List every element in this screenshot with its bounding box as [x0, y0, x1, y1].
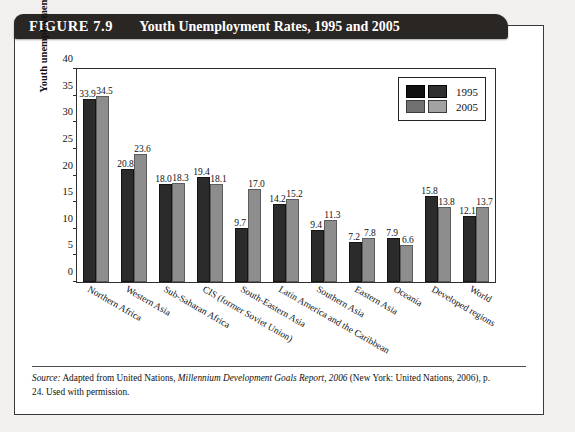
- legend-item-2005: 2005: [406, 100, 478, 113]
- bar-value-label: 18.0: [155, 174, 172, 184]
- bar-2005: 6.6: [400, 245, 413, 282]
- bar-value-label: 6.6: [402, 235, 414, 245]
- legend-swatch-2005-b: [428, 100, 447, 113]
- bar-2005: 34.5: [96, 96, 109, 282]
- bar-2005: 11.3: [324, 220, 337, 282]
- bar-value-label: 7.2: [348, 232, 360, 242]
- y-tick-label: 35: [63, 79, 74, 90]
- x-tick-label: Oceania: [392, 284, 424, 308]
- bar-1995: 15.8: [425, 196, 438, 282]
- legend-swatch-1995-a: [406, 85, 425, 98]
- bar-value-label: 19.4: [193, 167, 210, 177]
- y-tick-label: 10: [63, 212, 74, 223]
- bar-value-label: 33.9: [79, 89, 96, 99]
- y-tick-label: 40: [63, 53, 74, 64]
- bar-2005: 18.1: [210, 184, 223, 282]
- y-tick-label: 30: [63, 106, 74, 117]
- bar-2005: 17.0: [248, 189, 261, 282]
- bar-value-label: 13.7: [476, 197, 493, 207]
- y-tick-label: 5: [68, 239, 73, 250]
- x-tick-label: World: [468, 284, 493, 304]
- bar-value-label: 18.1: [210, 174, 227, 184]
- figure-title: Youth Unemployment Rates, 1995 and 2005: [139, 19, 400, 35]
- bar-value-label: 15.2: [286, 189, 303, 199]
- y-tick-label: 0: [68, 266, 73, 277]
- bar-1995: 12.1: [463, 216, 476, 282]
- source-divider: [32, 366, 526, 367]
- legend-label-2005: 2005: [456, 101, 478, 113]
- bar-group: 9.411.3: [311, 69, 337, 282]
- bar-1995: 33.9: [83, 99, 96, 282]
- x-tick-label: Developed regions: [430, 284, 497, 328]
- bar-2005: 15.2: [286, 199, 299, 282]
- bar-1995: 14.2: [273, 204, 286, 282]
- bar-value-label: 17.0: [248, 179, 265, 189]
- plot-frame: 0510152025303540 33.934.520.823.618.018.…: [76, 68, 496, 283]
- bar-2005: 23.6: [134, 154, 147, 282]
- source-text-1: Adapted from United Nations,: [61, 373, 178, 383]
- bar-value-label: 11.3: [324, 210, 340, 220]
- legend-swatch-2005-a: [406, 100, 425, 113]
- bar-group: 33.934.5: [83, 69, 109, 282]
- bar-group: 18.018.3: [159, 69, 185, 282]
- bar-2005: 13.8: [438, 207, 451, 282]
- x-axis-labels: Northern AfricaWestern AsiaSub-Saharan A…: [76, 284, 496, 364]
- bar-value-label: 18.3: [172, 173, 189, 183]
- source-label: Source:: [32, 373, 61, 383]
- bar-1995: 7.2: [349, 242, 362, 282]
- bar-group: 19.418.1: [197, 69, 223, 282]
- bar-value-label: 9.4: [310, 220, 322, 230]
- bar-1995: 9.4: [311, 230, 324, 282]
- bar-1995: 18.0: [159, 184, 172, 282]
- bar-1995: 7.9: [387, 238, 400, 282]
- bar-value-label: 14.2: [269, 194, 286, 204]
- bar-value-label: 7.8: [364, 228, 376, 238]
- figure-header-bar: FIGURE 7.9 Youth Unemployment Rates, 199…: [14, 14, 508, 39]
- bar-value-label: 13.8: [438, 197, 455, 207]
- bar-group: 14.215.2: [273, 69, 299, 282]
- bar-value-label: 23.6: [134, 144, 151, 154]
- y-axis-label: Youth unemployment rate (%): [38, 0, 49, 104]
- bar-value-label: 34.5: [96, 86, 113, 96]
- bar-1995: 19.4: [197, 177, 210, 282]
- bar-group: 9.717.0: [235, 69, 261, 282]
- bar-1995: 20.8: [121, 169, 134, 282]
- bar-group: 7.27.8: [349, 69, 375, 282]
- chart-area: Youth unemployment rate (%) 051015202530…: [24, 44, 534, 374]
- bar-2005: 7.8: [362, 238, 375, 282]
- source-work-title: Millennium Development Goals Report, 200…: [178, 373, 348, 383]
- bar-value-label: 20.8: [117, 159, 134, 169]
- bar-2005: 18.3: [172, 183, 185, 282]
- bar-value-label: 12.1: [459, 206, 476, 216]
- figure-container: FIGURE 7.9 Youth Unemployment Rates, 199…: [14, 14, 548, 418]
- legend-label-1995: 1995: [456, 86, 478, 98]
- bar-value-label: 15.8: [421, 186, 438, 196]
- bar-1995: 9.7: [235, 228, 248, 282]
- y-tick-label: 25: [63, 132, 74, 143]
- chart-legend: 1995 2005: [398, 77, 486, 121]
- source-note: Source: Adapted from United Nations, Mil…: [32, 372, 502, 399]
- bar-value-label: 9.7: [234, 218, 246, 228]
- bar-2005: 13.7: [476, 207, 489, 282]
- legend-swatch-1995-b: [428, 85, 447, 98]
- legend-item-1995: 1995: [406, 85, 478, 98]
- y-tick-label: 15: [63, 186, 74, 197]
- y-tick-label: 20: [63, 159, 74, 170]
- bar-value-label: 7.9: [386, 228, 398, 238]
- x-tick-label: Sub-Saharan Africa: [162, 284, 232, 330]
- bar-group: 20.823.6: [121, 69, 147, 282]
